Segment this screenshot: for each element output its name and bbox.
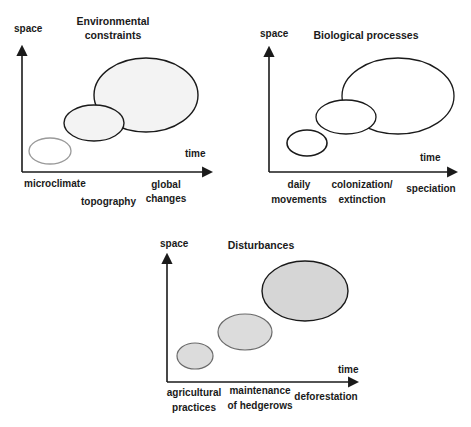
scale-label-daily-line1: daily [288, 179, 311, 190]
scale-label-hedgerows-line2: of hedgerows [227, 400, 292, 411]
x-axis-label: time [185, 148, 206, 159]
panel-title: Biological processes [313, 29, 418, 41]
scale-label-agricultural-line2: practices [172, 402, 216, 413]
scale-label-deforestation: deforestation [294, 391, 357, 402]
panel-title: Disturbances [228, 239, 295, 251]
x-axis-label: time [338, 364, 359, 375]
ellipse-colonization [316, 100, 376, 134]
panel-disturbances: space Disturbances time agricultural pra… [160, 238, 359, 413]
scale-label-speciation: speciation [406, 183, 455, 194]
panel-environmental-constraints: space Environmental constraints time mic… [14, 15, 211, 207]
ellipse-agricultural [177, 343, 213, 369]
scale-label-agricultural-line1: agricultural [167, 387, 222, 398]
scale-label-microclimate: microclimate [24, 178, 86, 189]
scale-label-global-line2: changes [146, 193, 187, 204]
scale-label-global-line1: global [151, 179, 181, 190]
scale-diagram: space Environmental constraints time mic… [0, 0, 471, 427]
panel-biological-processes: space Biological processes time daily mo… [260, 28, 456, 205]
scale-label-topography: topography [81, 196, 136, 207]
x-axis-label: time [420, 152, 441, 163]
scale-label-colonization-line1: colonization/ [331, 179, 392, 190]
panel-title-line1: Environmental [77, 15, 150, 27]
ellipse-daily-movements [287, 130, 327, 156]
ellipse-topography [64, 105, 124, 141]
scale-label-daily-line2: movements [271, 194, 327, 205]
scale-label-hedgerows-line1: maintenance [229, 385, 291, 396]
ellipse-hedgerows [218, 314, 272, 350]
y-axis-label: space [14, 23, 43, 34]
ellipse-deforestation [262, 261, 348, 321]
panel-title-line2: constraints [85, 29, 142, 41]
ellipse-microclimate [29, 138, 71, 164]
scale-label-colonization-line2: extinction [338, 194, 385, 205]
y-axis-label: space [260, 28, 289, 39]
y-axis-label: space [160, 238, 189, 249]
